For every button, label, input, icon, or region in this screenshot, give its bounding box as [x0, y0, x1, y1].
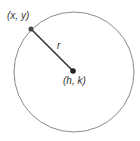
point-on-circle — [29, 27, 34, 32]
point-label: (x, y) — [7, 10, 29, 21]
radius-label: r — [57, 40, 60, 51]
radius-segment — [31, 29, 73, 71]
center-point — [70, 68, 76, 74]
circle-diagram — [0, 0, 140, 141]
center-label: (h, k) — [63, 75, 86, 86]
